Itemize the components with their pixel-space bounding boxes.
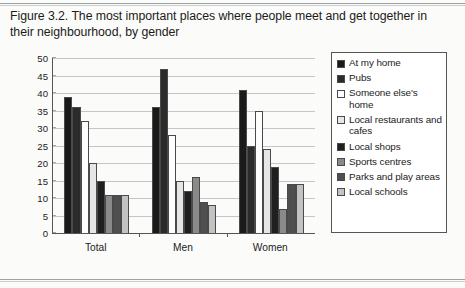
- legend-item-label: Local shops: [349, 141, 401, 153]
- bar[interactable]: [239, 90, 247, 234]
- legend-item-label: Local restaurants and cafes: [349, 114, 442, 137]
- bar[interactable]: [113, 195, 121, 234]
- bar[interactable]: [192, 177, 200, 233]
- y-axis-tick-20: 20: [37, 158, 48, 169]
- bar[interactable]: [255, 111, 263, 234]
- x-axis-tick-women: Women: [227, 233, 314, 257]
- bar[interactable]: [247, 146, 255, 234]
- bar[interactable]: [121, 195, 129, 234]
- legend-item[interactable]: Local shops: [337, 141, 442, 153]
- y-axis-tick-labels: 50454035302520151050: [22, 58, 48, 233]
- legend-swatch-icon: [337, 188, 345, 196]
- x-axis-tick-labels: TotalMenWomen: [52, 233, 314, 257]
- legend-item[interactable]: Someone else's home: [337, 87, 442, 110]
- y-axis-tick-35: 35: [37, 105, 48, 116]
- legend-item-label: At my home: [349, 57, 401, 69]
- legend-item[interactable]: At my home: [337, 57, 442, 69]
- bar[interactable]: [97, 181, 105, 234]
- y-axis-tick-45: 45: [37, 70, 48, 81]
- legend-item[interactable]: Sports centres: [337, 156, 442, 168]
- bar[interactable]: [200, 202, 208, 234]
- page-rule-bottom-secondary: [0, 281, 465, 282]
- x-axis-tick-total: Total: [52, 233, 139, 257]
- legend-swatch-icon: [337, 75, 345, 83]
- bar[interactable]: [176, 181, 184, 234]
- bar-group-inner: [64, 58, 129, 233]
- legend-swatch-icon: [337, 143, 345, 151]
- y-axis-tick-15: 15: [37, 175, 48, 186]
- bar-group-inner: [152, 58, 217, 233]
- y-axis-tick-5: 5: [43, 210, 48, 221]
- bar[interactable]: [64, 97, 72, 234]
- plot-area: 50454035302520151050 TotalMenWomen: [0, 50, 330, 260]
- bar-group: [53, 58, 140, 233]
- bar[interactable]: [287, 184, 295, 233]
- bar[interactable]: [168, 135, 176, 233]
- legend-item[interactable]: Local schools: [337, 186, 442, 198]
- y-axis-tick-30: 30: [37, 123, 48, 134]
- bar-group: [140, 58, 227, 233]
- bar-group-inner: [239, 58, 304, 233]
- legend-item-label: Sports centres: [349, 156, 411, 168]
- figure-container: Figure 3.2. The most important places wh…: [0, 0, 465, 288]
- y-axis-tick-0: 0: [43, 228, 48, 239]
- x-axis-tick-mark: [227, 233, 228, 237]
- figure-caption: Figure 3.2. The most important places wh…: [10, 9, 440, 40]
- legend-item-label: Local schools: [349, 186, 408, 198]
- y-axis-tick-50: 50: [37, 53, 48, 64]
- plot-canvas: [52, 58, 315, 234]
- legend-swatch-icon: [337, 60, 345, 68]
- bar[interactable]: [208, 205, 216, 233]
- bar[interactable]: [271, 167, 279, 234]
- legend-item[interactable]: Local restaurants and cafes: [337, 114, 442, 137]
- legend-swatch-icon: [337, 90, 345, 98]
- bar[interactable]: [263, 149, 271, 233]
- legend-swatch-icon: [337, 116, 345, 124]
- legend-swatch-icon: [337, 173, 345, 181]
- bar[interactable]: [160, 69, 168, 234]
- page-rule-top: [0, 3, 465, 4]
- page-rule-bottom: [0, 279, 465, 280]
- bar[interactable]: [105, 195, 113, 234]
- bar[interactable]: [81, 121, 89, 233]
- bar[interactable]: [296, 184, 304, 233]
- legend-item-label: Parks and play areas: [349, 171, 440, 183]
- bar[interactable]: [279, 209, 287, 234]
- legend-item[interactable]: Parks and play areas: [337, 171, 442, 183]
- chart-legend: At my homePubsSomeone else's homeLocal r…: [331, 52, 447, 233]
- page-rule-top-secondary: [0, 5, 465, 6]
- y-axis-tick-40: 40: [37, 88, 48, 99]
- legend-item-label: Someone else's home: [349, 87, 442, 110]
- y-axis-tick-10: 10: [37, 193, 48, 204]
- x-axis-tick-mark: [139, 233, 140, 237]
- bar[interactable]: [184, 191, 192, 233]
- bar-group: [228, 58, 315, 233]
- y-axis-tick-25: 25: [37, 140, 48, 151]
- bar[interactable]: [152, 107, 160, 233]
- bar[interactable]: [89, 163, 97, 233]
- legend-item[interactable]: Pubs: [337, 72, 442, 84]
- legend-swatch-icon: [337, 158, 345, 166]
- x-axis-tick-men: Men: [139, 233, 226, 257]
- bar-groups: [53, 58, 315, 233]
- bar[interactable]: [72, 107, 80, 233]
- legend-item-label: Pubs: [349, 72, 371, 84]
